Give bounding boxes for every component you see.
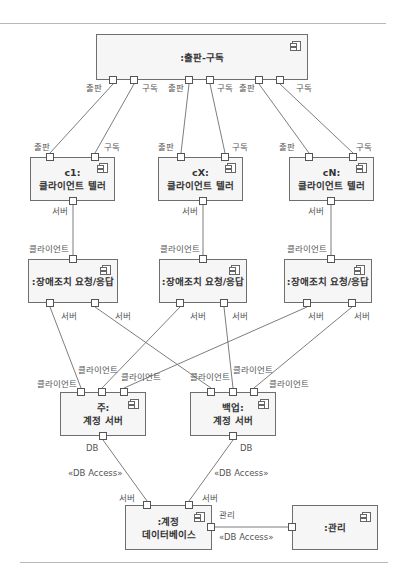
port-label-client: 클라이언트 [121,372,161,382]
server-port[interactable] [303,299,311,307]
port-label-server: 서버 [115,311,131,321]
component-instance: 주: [97,401,110,414]
uml-component-icon [196,512,205,522]
component-name: :관리 [324,521,346,534]
pubsub-component[interactable]: :출판-구독 [96,34,308,80]
component-type: 클라이언트 텔러 [167,179,233,192]
port-label-server: 서버 [232,311,248,321]
port-label-publish: 출판 [158,142,174,152]
port-label-publish: 출판 [239,83,255,93]
port-label-subscribe: 구독 [104,142,120,152]
publish-port[interactable] [305,153,313,161]
port-label-server: 서버 [308,311,324,321]
client-port[interactable] [77,388,85,396]
port-label-server: 서버 [119,493,135,503]
admin-port[interactable] [288,523,296,531]
backup-account-server[interactable]: 백업: 계정 서버 [190,392,276,436]
server-port[interactable] [327,197,335,205]
uml-component-icon [102,265,111,275]
db-port[interactable] [229,432,237,440]
publish-port[interactable] [177,153,185,161]
subscribe-port[interactable] [130,76,138,84]
component-type: 데이터베이스 [142,528,196,541]
component-name: :장애조치 요청/응답 [32,275,115,288]
client-teller-cx[interactable]: cX: 클라이언트 텔러 [158,157,243,201]
client-port[interactable] [207,388,215,396]
client-port[interactable] [250,388,258,396]
connector-label-db-access: «DB Access» [214,468,268,478]
client-port[interactable] [229,388,237,396]
port-label-db: DB [86,443,98,453]
admin-component[interactable]: :관리 [292,505,378,550]
server-port[interactable] [199,197,207,205]
port-label-subscribe: 구독 [232,142,248,152]
uml-component-icon [362,512,371,522]
server-port[interactable] [220,299,228,307]
port-label-publish: 출판 [86,83,102,93]
port-label-server: 서버 [354,311,370,321]
server-port[interactable] [143,501,151,509]
component-type: 계정 서버 [83,414,122,427]
server-port[interactable] [69,197,77,205]
component-instance: cN: [323,166,340,179]
uml-component-icon [130,399,139,409]
port-label-client: 클라이언트 [269,379,309,389]
component-type: 계정 서버 [213,414,252,427]
primary-account-server[interactable]: 주: 계정 서버 [60,392,146,436]
failover-request-response-3[interactable]: :장애조치 요청/응답 [284,259,372,303]
component-name: :출판-구독 [180,51,224,64]
server-port[interactable] [348,299,356,307]
port-label-client: 클라이언트 [287,244,327,254]
client-teller-c1[interactable]: c1: 클라이언트 텔러 [30,157,115,201]
publish-port[interactable] [109,76,117,84]
db-port[interactable] [99,432,107,440]
port-label-server: 서버 [182,206,198,216]
port-label-client: 클라이언트 [160,244,200,254]
subscribe-port[interactable] [276,76,284,84]
server-port[interactable] [185,501,193,509]
port-label-publish: 출판 [168,83,184,93]
uml-component-icon [292,41,301,51]
port-label-client: 클라이언트 [29,244,69,254]
client-port[interactable] [69,255,77,263]
port-label-server: 서버 [52,206,68,216]
account-database[interactable]: :계정 데이터베이스 [125,505,212,550]
publish-port[interactable] [185,76,193,84]
subscribe-port[interactable] [349,153,357,161]
client-port[interactable] [199,255,207,263]
port-label-client: 클라이언트 [37,379,77,389]
port-label-subscribe: 구독 [356,142,372,152]
server-port[interactable] [176,299,184,307]
port-label-subscribe: 구독 [217,83,233,93]
subscribe-port[interactable] [221,153,229,161]
failover-request-response-1[interactable]: :장애조치 요청/응답 [28,259,118,303]
failover-request-response-2[interactable]: :장애조치 요청/응답 [159,259,247,303]
subscribe-port[interactable] [206,76,214,84]
component-instance: 백업: [222,401,244,414]
client-teller-cn[interactable]: cN: 클라이언트 텔러 [289,157,374,201]
publish-port[interactable] [46,153,54,161]
connector-label-db-access: «DB Access» [219,532,273,542]
client-port[interactable] [327,255,335,263]
port-label-server: 서버 [308,206,324,216]
port-label-db: DB [240,443,252,453]
port-label-server: 서버 [61,311,77,321]
port-label-admin: 관리 [219,510,235,520]
uml-component-icon [358,163,367,173]
server-port[interactable] [46,299,54,307]
publish-port[interactable] [255,76,263,84]
port-label-server: 서버 [190,311,206,321]
uml-component-icon [260,399,269,409]
client-port[interactable] [120,388,128,396]
port-label-client: 클라이언트 [78,365,118,375]
client-port[interactable] [98,388,106,396]
component-type: 클라이언트 텔러 [39,179,105,192]
subscribe-port[interactable] [91,153,99,161]
component-instance: c1: [64,166,80,179]
uml-component-icon [231,265,240,275]
uml-component-icon [227,163,236,173]
server-port[interactable] [91,299,99,307]
admin-port[interactable] [207,523,215,531]
component-instance: cX: [192,166,209,179]
uml-component-icon [356,265,365,275]
